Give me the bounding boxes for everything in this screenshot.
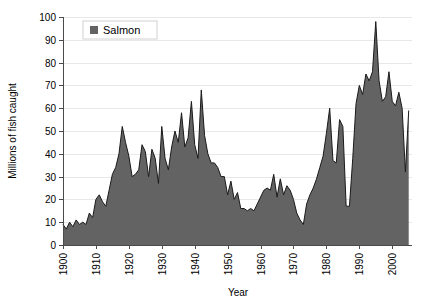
x-tick-label-2000: 2000 (387, 253, 398, 276)
legend-swatch-salmon (90, 26, 98, 34)
x-axis-title: Year (228, 287, 249, 298)
y-tick-label-50: 50 (45, 126, 57, 137)
x-tick-label-1910: 1910 (91, 253, 102, 276)
y-tick-label-40: 40 (45, 149, 57, 160)
x-tick-label-1930: 1930 (157, 253, 168, 276)
y-tick-label-70: 70 (45, 80, 57, 91)
x-tick-label-1970: 1970 (288, 253, 299, 276)
legend: Salmon (83, 21, 157, 39)
x-tick-label-1920: 1920 (124, 253, 135, 276)
x-tick-label-1980: 1980 (321, 253, 332, 276)
x-tick-label-1960: 1960 (256, 253, 267, 276)
y-tick-label-20: 20 (45, 194, 57, 205)
x-tick-label-1950: 1950 (223, 253, 234, 276)
x-tick-label-1900: 1900 (58, 253, 69, 276)
y-tick-label-0: 0 (50, 240, 56, 251)
x-tick-labels-group: 1900191019201930194019501960197019801990… (58, 245, 398, 275)
y-axis-title: Millions of fish caught (7, 83, 18, 179)
data-area-group (63, 22, 409, 245)
y-tick-label-90: 90 (45, 35, 57, 46)
y-tick-label-60: 60 (45, 103, 57, 114)
salmon-catch-chart: 0102030405060708090100 19001910192019301… (0, 0, 430, 306)
y-tick-label-10: 10 (45, 217, 57, 228)
x-tick-label-1940: 1940 (190, 253, 201, 276)
chart-canvas: 0102030405060708090100 19001910192019301… (0, 0, 430, 306)
y-tick-label-80: 80 (45, 58, 57, 69)
x-tick-label-1990: 1990 (354, 253, 365, 276)
area-fill-salmon (63, 22, 409, 245)
y-tick-label-100: 100 (39, 12, 56, 23)
y-tick-label-30: 30 (45, 172, 57, 183)
legend-label-salmon: Salmon (103, 24, 140, 36)
y-tick-labels-group: 0102030405060708090100 (39, 12, 63, 251)
